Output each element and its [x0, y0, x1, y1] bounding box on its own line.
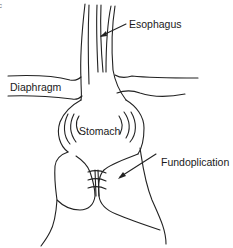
label-stomach: Stomach [79, 126, 120, 137]
fundoplication-diagram: c [0, 0, 233, 248]
label-esophagus: Esophagus [129, 19, 182, 30]
label-diaphragm: Diaphragm [10, 82, 61, 93]
anatomy-drawing [0, 0, 233, 248]
esophagus-shape [81, 4, 126, 100]
fundoplication-leader-arrow [118, 154, 156, 179]
fundoplication-shape [41, 148, 166, 246]
label-fundoplication: Fundoplication [161, 157, 229, 168]
